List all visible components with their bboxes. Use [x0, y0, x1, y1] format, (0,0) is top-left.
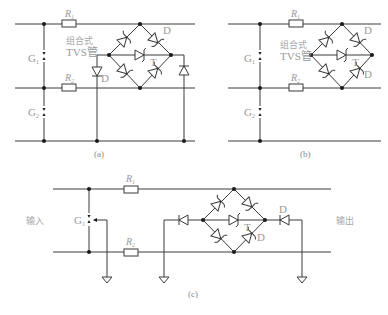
label-input: 输入: [26, 215, 44, 226]
label-r2: R2: [290, 72, 300, 84]
label-r2: R2: [125, 236, 135, 248]
label-output: 输出: [336, 215, 354, 226]
panel-a: R1 R2 G1 G2 组合式 TVS管 D T D (a): [15, 8, 195, 159]
panel-c: R1 R2 G1 输入 输出 D T D (c): [26, 173, 354, 299]
ground-icon: [102, 277, 112, 283]
diode-icon: [179, 215, 188, 225]
diode-icon: [280, 215, 289, 225]
gas-discharge-tube-g2-icon: [259, 108, 262, 116]
gas-discharge-tube-g1-icon: [88, 215, 91, 223]
label-g1: G1: [28, 52, 39, 65]
label-d-left: D: [101, 72, 109, 84]
label-r2: R2: [64, 72, 74, 84]
label-t: T: [244, 221, 251, 233]
label-g2: G2: [244, 106, 255, 119]
label-g1: G1: [244, 52, 255, 65]
resistor-r2-icon: [289, 84, 303, 91]
resistor-r1-icon: [124, 186, 138, 193]
resistor-r1-icon: [289, 20, 303, 27]
diode-icon: [179, 66, 189, 75]
circuit-diagram: R1 R2 G1 G2 组合式 TVS管 D T D (a) R1 R2 G1: [0, 0, 388, 315]
label-g2: G2: [28, 106, 39, 119]
label-t: T: [150, 56, 157, 68]
label-t: T: [352, 56, 359, 68]
panel-b: R1 R2 G1 G2 组合式 TVS管 D T D (b): [228, 8, 381, 159]
label-tvs-line2: TVS管: [280, 49, 312, 62]
caption-c: (c): [188, 289, 198, 299]
ground-icon: [297, 277, 307, 283]
caption-a: (a): [94, 149, 104, 159]
tvs-diode-icon: [135, 48, 146, 62]
tvs-diode-icon: [210, 195, 228, 213]
resistor-r2-icon: [62, 84, 76, 91]
label-d-out: D: [279, 203, 287, 215]
gas-discharge-tube-g1-icon: [43, 52, 46, 60]
tvs-diode-icon: [229, 213, 240, 227]
label-r1: R1: [125, 173, 135, 185]
tvs-diode-icon: [147, 32, 165, 50]
label-d-top: D: [364, 24, 372, 36]
resistor-r2-icon: [124, 249, 138, 256]
label-d-bottom: D: [364, 68, 372, 80]
label-d-top: D: [163, 24, 171, 36]
label-tvs-line1: 组合式: [280, 39, 307, 50]
label-tvs-line2: TVS管: [66, 45, 98, 58]
label-r1: R1: [64, 8, 74, 20]
label-tvs-line1: 组合式: [66, 35, 93, 46]
gas-discharge-tube-g1-icon: [259, 52, 262, 60]
label-g1: G1: [74, 214, 85, 227]
label-d-bottom: D: [257, 231, 265, 243]
tvs-diode-icon: [337, 48, 348, 62]
gas-discharge-tube-g2-icon: [43, 108, 46, 116]
ground-icon: [159, 277, 169, 283]
resistor-r1-icon: [62, 20, 76, 27]
label-r1: R1: [290, 8, 300, 20]
caption-b: (b): [300, 149, 311, 159]
